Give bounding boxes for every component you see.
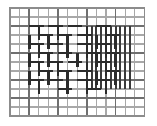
grid-illusion-figure [0, 0, 157, 126]
illusion-canvas [0, 0, 157, 126]
